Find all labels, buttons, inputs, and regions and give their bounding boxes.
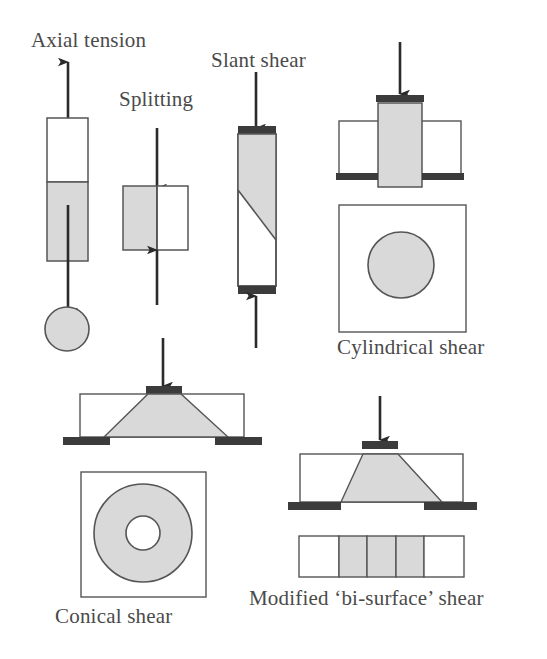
bi-surface-shear-plan-panel-2 xyxy=(339,536,367,577)
slant-shear-diagram xyxy=(238,72,276,348)
bi-surface-shear-plan-panel-1 xyxy=(299,536,339,577)
figure-vector-canvas xyxy=(0,0,547,659)
slant-shear-top-bearing-plate xyxy=(238,126,276,134)
label-splitting: Splitting xyxy=(119,89,193,110)
bi-surface-shear-plan-panel-5 xyxy=(424,536,464,577)
splitting-specimen-left-shaded xyxy=(123,186,157,250)
test-configurations-figure: Axial tension Splitting Slant shear Cyli… xyxy=(0,0,547,659)
cylindrical-shear-left-support-plate xyxy=(336,173,378,180)
bi-surface-shear-top-bearing-plate xyxy=(362,441,398,449)
splitting-specimen-right-white xyxy=(157,186,188,250)
conical-shear-diagram xyxy=(63,338,262,597)
axial-tension-diagram xyxy=(45,62,89,351)
label-slant-shear: Slant shear xyxy=(211,50,306,71)
splitting-diagram xyxy=(123,128,188,305)
label-cylindrical-shear: Cylindrical shear xyxy=(337,337,484,358)
bi-surface-shear-plan-panel-4 xyxy=(396,536,424,577)
cylindrical-shear-left-block xyxy=(339,121,380,174)
conical-shear-right-support-plate xyxy=(215,437,262,445)
axial-tension-specimen-top-white xyxy=(47,118,88,182)
cylindrical-shear-top-bearing-plate xyxy=(376,95,424,102)
label-axial-tension: Axial tension xyxy=(31,30,146,51)
conical-shear-plan-inner-circle xyxy=(126,516,160,550)
bi-surface-shear-right-support-plate xyxy=(424,502,477,510)
label-conical-shear: Conical shear xyxy=(55,606,172,627)
conical-shear-top-bearing-plate xyxy=(146,386,182,394)
label-bi-surface-shear: Modified ‘bi-surface’ shear xyxy=(249,588,484,609)
cylindrical-shear-diagram xyxy=(336,42,466,332)
axial-tension-plan-circle xyxy=(45,307,89,351)
cylindrical-shear-right-support-plate xyxy=(422,173,464,180)
cylindrical-shear-central-column xyxy=(378,103,422,187)
cylindrical-shear-plan-circle xyxy=(368,232,434,298)
bi-surface-shear-left-support-plate xyxy=(288,502,341,510)
slant-shear-bottom-bearing-plate xyxy=(238,286,276,294)
bi-surface-shear-diagram xyxy=(288,396,477,577)
conical-shear-left-support-plate xyxy=(63,437,110,445)
bi-surface-shear-plan-panel-3 xyxy=(367,536,396,577)
cylindrical-shear-right-block xyxy=(420,121,461,174)
